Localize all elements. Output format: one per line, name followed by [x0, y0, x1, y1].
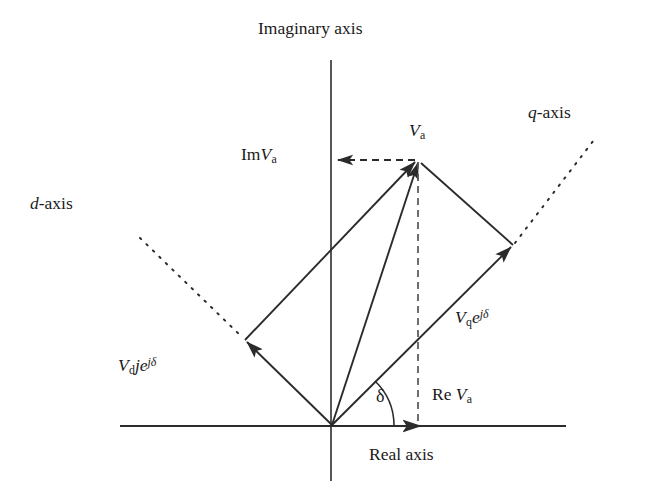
im-va-symbol: V	[260, 144, 271, 164]
re-va-subscript: a	[467, 392, 472, 406]
re-prefix: Re	[432, 384, 451, 404]
va-phasor-arrow	[332, 163, 418, 425]
phasor-diagram-figure: Imaginary axis Real axis d-axis q-axis I…	[0, 0, 666, 481]
q-axis-suffix: -axis	[537, 102, 571, 122]
im-va-subscript: a	[271, 152, 276, 166]
d-axis-label: d-axis	[30, 195, 73, 213]
delta-angle-label: δ	[376, 387, 384, 405]
imaginary-axis-label: Imaginary axis	[258, 20, 362, 38]
va-subscript: a	[420, 128, 425, 142]
q-axis-label: q-axis	[528, 104, 571, 122]
vd-phasor-label: Vdjejδ	[118, 357, 156, 377]
vq-exp-base: e	[472, 307, 480, 327]
vq-phasor-label: Vqejδ	[455, 309, 489, 329]
diagram-canvas	[0, 0, 666, 481]
vq-symbol: V	[455, 307, 466, 327]
va-symbol: V	[409, 120, 420, 140]
vd-exponent: jδ	[148, 355, 157, 369]
re-va-label: Re Va	[432, 386, 472, 406]
im-prefix: Im	[241, 144, 260, 164]
im-va-label: ImVa	[241, 146, 277, 166]
q-axis-symbol: q	[528, 102, 537, 122]
vd-symbol: V	[118, 355, 129, 375]
vd-phasor-arrow	[247, 342, 332, 425]
vq-exponent: jδ	[480, 307, 489, 321]
d-axis-dotted-line	[140, 238, 243, 338]
va-label: Va	[409, 122, 425, 142]
vq-phasor-arrow	[332, 247, 511, 425]
parallelogram-side-q-to-apex	[421, 163, 513, 245]
d-axis-symbol: d	[30, 193, 39, 213]
re-va-symbol: V	[456, 384, 467, 404]
vd-exp-base: e	[140, 355, 148, 375]
q-axis-dotted-line	[515, 136, 597, 243]
d-axis-suffix: -axis	[39, 193, 73, 213]
real-axis-label: Real axis	[369, 446, 434, 464]
